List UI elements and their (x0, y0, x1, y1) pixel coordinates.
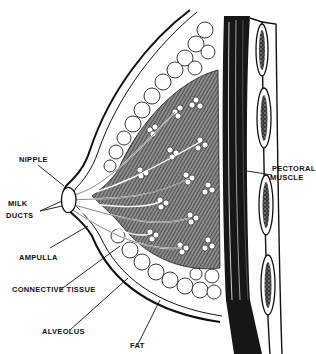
ribs (250, 18, 282, 354)
label-pectoral-muscle-line2: MUSCLE (270, 173, 303, 182)
breast-anatomy-diagram (0, 0, 316, 354)
label-ampulla: AMPULLA (19, 253, 58, 262)
label-milk-ducts-line2: DUCTS (6, 211, 33, 220)
nipple-shape (62, 188, 77, 213)
label-fat: FAT (130, 341, 145, 350)
label-nipple: NIPPLE (19, 155, 48, 164)
label-milk-ducts-line1: MILK (8, 199, 28, 208)
pectoral-muscle (223, 16, 262, 354)
label-alveolus: ALVEOLUS (42, 327, 85, 336)
label-pectoral-muscle-line1: PECTORAL (272, 164, 316, 173)
label-connective-tissue: CONNECTIVE TISSUE (12, 285, 95, 294)
